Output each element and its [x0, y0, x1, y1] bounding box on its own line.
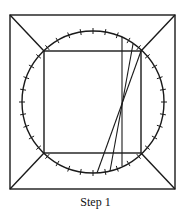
diagonal-top-right [141, 15, 175, 51]
chord-line [97, 51, 141, 173]
diagonal-bottom-right [141, 153, 175, 189]
circle-tick [160, 114, 166, 115]
circle-tick [160, 89, 166, 90]
circle-tick [105, 29, 106, 35]
inner-square [44, 51, 141, 153]
circle-tick [80, 29, 81, 35]
circle-tick [20, 89, 26, 90]
circle-tick [105, 169, 106, 175]
circle-tick [20, 114, 26, 115]
step-1-diagram [0, 0, 191, 213]
diagonal-bottom-left [10, 153, 44, 189]
diagonal-top-left [10, 15, 44, 51]
figure-caption: Step 1 [0, 195, 191, 210]
circle-tick [80, 169, 81, 175]
